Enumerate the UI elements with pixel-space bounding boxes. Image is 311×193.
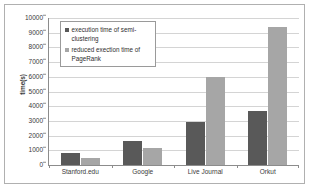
legend-swatch-icon	[65, 48, 69, 52]
chart-container: time(s) 10000900080007000600050004000300…	[4, 4, 305, 184]
x-axis-tick-mark	[237, 165, 238, 168]
y-axis-tick-mark	[43, 132, 46, 133]
bar	[268, 27, 287, 165]
y-axis-tick-mark	[43, 88, 46, 89]
y-axis-tick-mark	[43, 29, 46, 30]
bar	[123, 141, 142, 165]
y-axis-tick-mark	[43, 162, 46, 163]
bar-group	[248, 18, 287, 165]
y-axis-tick-mark	[43, 118, 46, 119]
x-axis-tick-mark	[298, 165, 299, 168]
x-axis-tick-label: Google	[112, 168, 175, 175]
y-axis-tick-label: 6000	[29, 74, 43, 81]
bar	[143, 148, 162, 165]
y-axis-tick-mark	[43, 74, 46, 75]
legend-entry: execution time of semi-clustering	[64, 26, 152, 43]
y-axis-tick-mark	[43, 147, 46, 148]
y-axis-tick-labels: 1000090008000700060005000400030002000100…	[9, 18, 47, 165]
bar	[206, 77, 225, 165]
y-axis-tick-label: 5000	[29, 88, 43, 95]
bar	[248, 111, 267, 165]
y-axis-tick-mark	[43, 44, 46, 45]
y-axis-tick-mark	[43, 103, 46, 104]
y-axis-tick-label: 8000	[29, 44, 43, 51]
x-axis-tick-mark	[49, 165, 50, 168]
legend-swatch-icon	[65, 28, 69, 32]
y-axis-tick-mark	[43, 15, 46, 16]
x-axis-tick-label: Stanford.edu	[49, 168, 112, 175]
bar-group	[186, 18, 225, 165]
y-axis-tick-label: 3000	[29, 118, 43, 125]
y-axis-tick-label: 7000	[29, 59, 43, 66]
y-axis-tick-label: 2000	[29, 132, 43, 139]
y-axis-tick-label: 4000	[29, 103, 43, 110]
legend-label: execution time of semi-clustering	[72, 26, 153, 43]
x-axis-tick-label: Orkut	[237, 168, 300, 175]
legend-entry: reduced exection time of PageRank	[64, 46, 152, 63]
y-axis-tick-label: 0	[39, 162, 43, 169]
bar	[186, 122, 205, 165]
x-axis-tick-mark	[112, 165, 113, 168]
bar	[61, 153, 80, 165]
chart-legend: execution time of semi-clusteringreduced…	[60, 21, 156, 67]
y-axis-tick-label: 1000	[29, 147, 43, 154]
x-axis-tick-label: Live Journal	[174, 168, 237, 175]
x-axis-tick-mark	[174, 165, 175, 168]
y-axis-tick-label: 10000	[25, 15, 43, 22]
y-axis-tick-mark	[43, 59, 46, 60]
x-axis-tick-labels: Stanford.eduGoogleLive JournalOrkut	[49, 168, 299, 182]
y-axis-tick-label: 9000	[29, 29, 43, 36]
bar	[81, 158, 100, 165]
legend-label: reduced exection time of PageRank	[72, 46, 153, 63]
